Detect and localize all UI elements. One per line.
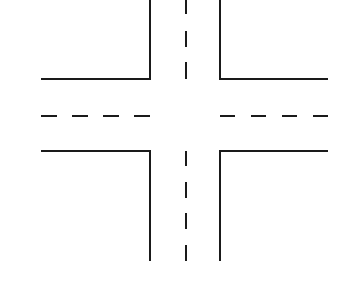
intersection-diagram [0,0,339,283]
curb-lines [41,0,328,261]
lane-divider-dashes [41,0,328,261]
top-right-curb [220,0,328,79]
top-left-curb [41,0,150,79]
bottom-right-curb [220,151,328,261]
bottom-left-curb [41,151,150,261]
intersection-svg [0,0,339,283]
